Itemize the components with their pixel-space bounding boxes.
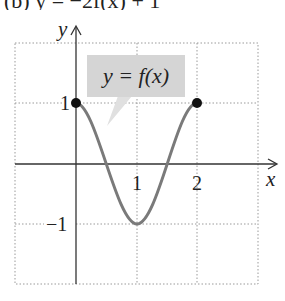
endpoint-right bbox=[192, 98, 202, 108]
x-tick-1: 1 bbox=[132, 172, 142, 194]
graph: y x 1 2 1 −1 bbox=[0, 0, 285, 301]
y-axis-label: y bbox=[56, 17, 68, 41]
x-axis-label: x bbox=[265, 167, 276, 191]
y-tick-1: 1 bbox=[60, 92, 70, 114]
callout-label: y = f(x) bbox=[87, 55, 185, 97]
endpoint-left bbox=[71, 98, 81, 108]
y-tick-minus1: −1 bbox=[46, 213, 67, 235]
x-tick-2: 2 bbox=[192, 172, 202, 194]
callout-tail bbox=[107, 96, 132, 126]
